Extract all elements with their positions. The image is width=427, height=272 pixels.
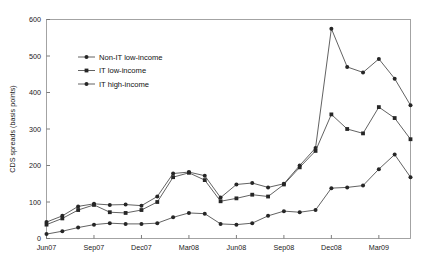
data-point-marker [60, 229, 64, 233]
data-point-marker [345, 65, 349, 69]
data-point-marker [85, 69, 89, 73]
x-tick-label: Jun08 [227, 243, 247, 252]
data-point-marker [282, 209, 286, 213]
data-point-marker [76, 204, 80, 208]
x-tick-label: Dec07 [131, 243, 152, 252]
y-tick-label: 500 [29, 52, 41, 61]
data-point-marker [393, 116, 397, 120]
data-point-marker [409, 175, 413, 179]
data-point-marker [203, 212, 207, 216]
data-point-marker [234, 223, 238, 227]
data-point-marker [76, 208, 80, 212]
y-tick-label: 400 [29, 88, 41, 97]
data-point-marker [282, 183, 286, 187]
data-point-marker [345, 185, 349, 189]
data-point-marker [345, 127, 349, 131]
data-point-marker [108, 210, 112, 214]
legend-label: IT low-income [99, 66, 146, 75]
data-point-marker [108, 221, 112, 225]
data-point-marker [235, 196, 239, 200]
data-point-marker [203, 178, 207, 182]
data-point-marker [155, 221, 159, 225]
x-tick-label: Jun07 [37, 243, 57, 252]
data-point-marker [314, 208, 318, 212]
data-point-marker [203, 174, 207, 178]
x-tick-label: Sep07 [84, 243, 105, 252]
data-point-marker [171, 175, 175, 179]
legend-label: Non-IT low-income [99, 53, 163, 62]
y-tick-label: 300 [29, 125, 41, 134]
cds-spreads-chart: 0100200300400500600 Jun07Sep07Dec07Mar08… [0, 0, 427, 272]
data-point-marker [155, 195, 159, 199]
data-point-marker [329, 27, 333, 31]
data-point-marker [298, 165, 302, 169]
y-tick-label: 600 [29, 15, 41, 24]
data-point-marker [108, 203, 112, 207]
data-point-marker [219, 222, 223, 226]
data-point-marker [187, 171, 191, 175]
chart-canvas: 0100200300400500600 Jun07Sep07Dec07Mar08… [0, 0, 427, 272]
data-point-marker [234, 182, 238, 186]
data-point-marker [377, 57, 381, 61]
data-point-marker [124, 211, 128, 215]
data-point-marker [250, 221, 254, 225]
data-point-marker [219, 199, 223, 203]
data-point-marker [377, 105, 381, 109]
data-point-marker [45, 232, 49, 236]
data-point-marker [409, 103, 413, 107]
data-point-marker [266, 185, 270, 189]
data-point-marker [250, 181, 254, 185]
data-point-marker [85, 55, 89, 59]
data-point-marker [45, 223, 49, 227]
data-point-marker [393, 153, 397, 157]
data-point-marker [361, 131, 365, 135]
data-point-marker [92, 203, 96, 207]
x-tick-label: Mar08 [179, 243, 199, 252]
data-point-marker [361, 70, 365, 74]
data-point-marker [140, 208, 144, 212]
data-point-marker [187, 211, 191, 215]
data-point-marker [298, 210, 302, 214]
data-point-marker [139, 204, 143, 208]
data-point-marker [266, 195, 270, 199]
data-point-marker [92, 223, 96, 227]
data-point-marker [329, 113, 333, 117]
data-point-marker [250, 193, 254, 197]
data-point-marker [60, 217, 64, 221]
y-axis-title-group: CDS spreads (basis points) [8, 85, 17, 172]
y-tick-label: 100 [29, 198, 41, 207]
x-tick-label: Mar09 [369, 243, 389, 252]
data-point-marker [314, 149, 318, 153]
data-point-marker [409, 137, 413, 141]
data-point-marker [361, 184, 365, 188]
data-point-marker [124, 222, 128, 226]
data-point-marker [266, 214, 270, 218]
data-point-marker [329, 186, 333, 190]
legend-label: IT high-income [99, 80, 149, 89]
data-point-marker [393, 77, 397, 81]
data-point-marker [139, 222, 143, 226]
y-tick-label: 200 [29, 161, 41, 170]
data-point-marker [155, 200, 159, 204]
data-point-marker [76, 226, 80, 230]
data-point-marker [124, 203, 128, 207]
y-axis-title: CDS spreads (basis points) [8, 85, 17, 172]
data-point-marker [171, 215, 175, 219]
data-point-marker [171, 172, 175, 176]
data-point-marker [85, 82, 89, 86]
x-tick-label: Dec08 [321, 243, 342, 252]
data-point-marker [377, 167, 381, 171]
x-tick-label: Sep08 [273, 243, 294, 252]
